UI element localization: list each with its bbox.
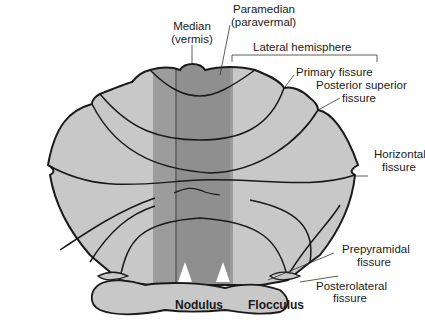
label-median: Median bbox=[173, 20, 211, 32]
label-median-vermis: (vermis) bbox=[171, 33, 213, 45]
label-primary-fissure: Primary fissure bbox=[296, 66, 373, 78]
label-posterior-superior-fissure: fissure bbox=[342, 92, 376, 104]
label-horizontal-fissure: fissure bbox=[382, 161, 416, 173]
label-horizontal: Horizontal bbox=[374, 148, 425, 160]
label-flocculus: Flocculus bbox=[248, 298, 304, 312]
label-paramedian: Paramedian bbox=[233, 3, 295, 15]
label-lateral-hemisphere: Lateral hemisphere bbox=[253, 41, 351, 53]
label-prepyramidal-fissure: fissure bbox=[357, 256, 391, 268]
lateral-hemisphere-bracket bbox=[232, 55, 377, 62]
label-paravermal: (paravermal) bbox=[231, 16, 296, 28]
label-posterior-superior: Posterior superior bbox=[316, 79, 407, 91]
label-nodulus: Nodulus bbox=[175, 298, 223, 312]
label-prepyramidal: Prepyramidal bbox=[342, 243, 410, 255]
cerebellum-diagram: Median (vermis) Paramedian (paravermal) … bbox=[0, 0, 425, 320]
label-posterolateral: Posterolateral bbox=[316, 280, 387, 292]
label-posterolateral-fissure: fissure bbox=[333, 292, 367, 304]
